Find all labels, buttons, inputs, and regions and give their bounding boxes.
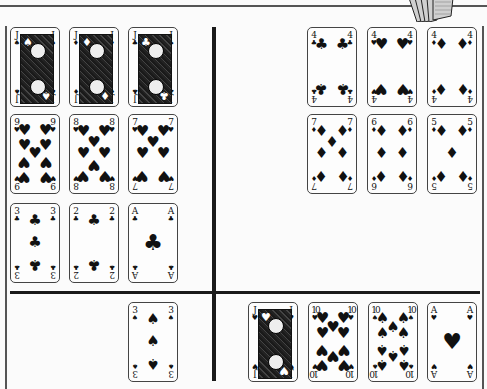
rank-label: 3 <box>13 271 21 279</box>
suit-icon: ♣ <box>167 215 175 223</box>
suit-pip-icon: ♥ <box>156 168 172 183</box>
card-seven-of-diamonds[interactable]: 7♦7♦7♦7♦♦♦♦♦♦♦♦ <box>307 114 357 194</box>
suit-pip-icon: ♦ <box>455 37 471 52</box>
suit-pip-icon: ♥ <box>134 168 150 183</box>
card-ten-of-hearts[interactable]: 10♥10♥10♥10♥♥♥♥♥♥♥♥♥♥♥ <box>308 302 358 382</box>
suit-icon: ♠ <box>167 314 175 322</box>
suit-icon: ♥ <box>430 314 438 322</box>
face-card-portrait: ♦♦ <box>79 34 113 104</box>
suit-icon: ♠ <box>23 37 33 48</box>
suit-icon: ♥ <box>279 365 289 376</box>
card-index: 2♣ <box>108 263 116 279</box>
suit-pip-icon: ♦ <box>433 37 449 52</box>
card-fan-icon[interactable] <box>405 0 457 22</box>
suit-pip-icon: ♥ <box>440 330 464 354</box>
suit-pip-icon: ♣ <box>313 81 329 96</box>
suit-icon: ♠ <box>167 362 175 370</box>
card-five-of-diamonds[interactable]: 5♦5♦5♦5♦♦♦♦♦♦ <box>427 114 477 194</box>
card-jack-of-diamonds[interactable]: J♦J♦J♦J♦♦♦ <box>69 27 119 107</box>
suit-pip-icon: ♦ <box>373 168 389 183</box>
suit-pip-icon: ♣ <box>86 257 102 272</box>
rank-label: A <box>466 306 474 314</box>
card-index: 2♣ <box>108 207 116 223</box>
card-index: A♣ <box>167 207 175 223</box>
suit-pip-icon: ♥ <box>156 146 172 161</box>
suit-icon: ♣ <box>13 215 21 223</box>
suit-pip-icon: ♠ <box>374 357 390 372</box>
card-three-of-spades[interactable]: 3♠3♠3♠3♠♠♠♠ <box>128 302 178 382</box>
rank-label: 3 <box>167 306 175 314</box>
suit-pip-icon: ♣ <box>141 231 165 255</box>
suit-pip-icon: ♥ <box>395 37 411 52</box>
suit-pip-icon: ♠ <box>374 326 390 341</box>
suit-pip-icon: ♥ <box>314 357 330 372</box>
rank-label: 2 <box>72 271 80 279</box>
card-ace-of-clubs[interactable]: A♣A♣A♣A♣♣ <box>128 203 178 283</box>
suit-pip-icon: ♦ <box>335 146 351 161</box>
suit-pip-icon: ♥ <box>75 168 91 183</box>
card-ten-of-spades[interactable]: 10♠10♠10♠10♠♠♠♠♠♠♠♠♠♠♠ <box>368 302 418 382</box>
rank-label: A <box>131 207 139 215</box>
card-four-of-diamonds[interactable]: 4♦4♦4♦4♦♦♦♦♦ <box>427 27 477 107</box>
card-jack-of-hearts[interactable]: J♥J♥J♥J♥♥♥ <box>248 302 298 382</box>
rank-label: 3 <box>167 370 175 378</box>
card-index: A♣ <box>131 207 139 223</box>
center-divider <box>212 27 216 381</box>
suit-pip-icon: ♦ <box>433 124 449 139</box>
card-seven-of-hearts[interactable]: 7♥7♥7♥7♥♥♥♥♥♥♥♥ <box>128 114 178 194</box>
card-index: 3♠ <box>131 362 139 378</box>
suit-icon: ♣ <box>72 215 80 223</box>
card-index: A♥ <box>466 362 474 378</box>
suit-pip-icon: ♠ <box>145 356 161 371</box>
suit-pip-icon: ♥ <box>336 357 352 372</box>
suit-icon: ♣ <box>49 215 57 223</box>
suit-pip-icon: ♦ <box>433 81 449 96</box>
rank-label: 3 <box>49 271 57 279</box>
card-index: A♣ <box>167 263 175 279</box>
suit-icon: ♠ <box>131 362 139 370</box>
suit-pip-icon: ♦ <box>433 168 449 183</box>
suit-icon: ♣ <box>167 263 175 271</box>
suit-pip-icon: ♣ <box>313 37 329 52</box>
card-ace-of-hearts[interactable]: A♥A♥A♥A♥♥ <box>427 302 477 382</box>
suit-pip-icon: ♥ <box>314 326 330 341</box>
card-four-of-clubs[interactable]: 4♣4♣4♣4♣♣♣♣♣ <box>307 27 357 107</box>
suit-icon: ♣ <box>13 263 21 271</box>
card-jack-of-spades[interactable]: J♠J♠J♠J♠♠♠ <box>10 27 60 107</box>
card-three-of-clubs[interactable]: 3♣3♣3♣3♣♣♣♣ <box>10 203 60 283</box>
card-eight-of-hearts[interactable]: 8♥8♥8♥8♥♥♥♥♥♥♥♥♥ <box>69 114 119 194</box>
suit-pip-icon: ♥ <box>373 81 389 96</box>
suit-icon: ♠ <box>131 314 139 322</box>
rank-label: A <box>167 207 175 215</box>
card-index: 3♣ <box>13 207 21 223</box>
card-index: 2♣ <box>72 263 80 279</box>
suit-pip-icon: ♥ <box>395 81 411 96</box>
card-index: 3♠ <box>131 306 139 322</box>
suit-icon: ♣ <box>141 37 151 48</box>
left-border <box>5 26 7 389</box>
suit-pip-icon: ♦ <box>373 124 389 139</box>
suit-icon: ♥ <box>430 362 438 370</box>
card-index: 3♣ <box>49 207 57 223</box>
suit-icon: ♦ <box>82 37 92 48</box>
suit-pip-icon: ♦ <box>373 146 389 161</box>
suit-icon: ♥ <box>466 314 474 322</box>
card-two-of-clubs[interactable]: 2♣2♣2♣2♣♣♣ <box>69 203 119 283</box>
rank-label: 3 <box>131 306 139 314</box>
suit-pip-icon: ♠ <box>396 326 412 341</box>
suit-pip-icon: ♥ <box>373 37 389 52</box>
suit-icon: ♣ <box>108 263 116 271</box>
suit-icon: ♦ <box>100 90 110 101</box>
card-index: 3♣ <box>49 263 57 279</box>
suit-icon: ♣ <box>131 215 139 223</box>
suit-pip-icon: ♣ <box>27 257 43 272</box>
card-four-of-hearts[interactable]: 4♥4♥4♥4♥♥♥♥♥ <box>367 27 417 107</box>
suit-pip-icon: ♦ <box>313 146 329 161</box>
card-jack-of-clubs[interactable]: J♣J♣J♣J♣♣♣ <box>128 27 178 107</box>
rank-label: A <box>466 370 474 378</box>
suit-pip-icon: ♥ <box>97 168 113 183</box>
suit-pip-icon: ♣ <box>27 235 43 250</box>
card-six-of-diamonds[interactable]: 6♦6♦6♦6♦♦♦♦♦♦♦ <box>367 114 417 194</box>
card-nine-of-hearts[interactable]: 9♥9♥9♥9♥♥♥♥♥♥♥♥♥♥ <box>10 114 60 194</box>
card-index: A♣ <box>131 263 139 279</box>
